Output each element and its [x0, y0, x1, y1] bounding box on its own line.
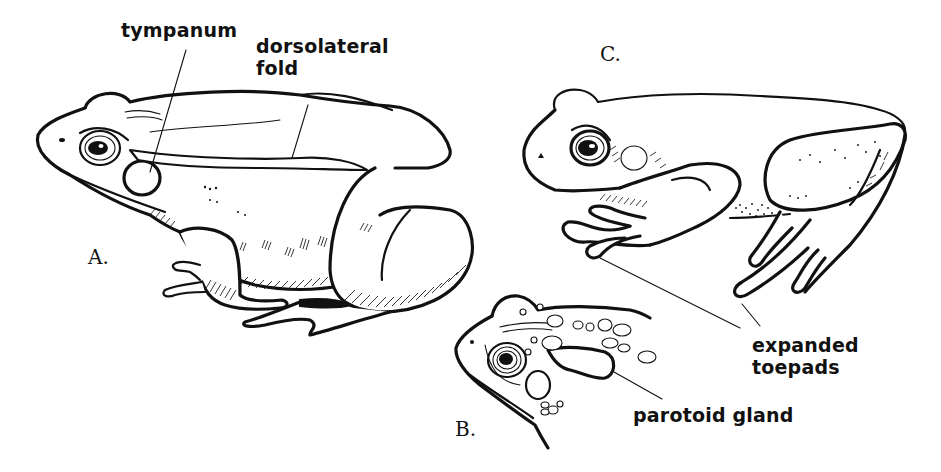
treefrog-c-drawing: [524, 90, 906, 328]
panel-letter-a: A.: [88, 245, 109, 269]
label-parotoid-gland: parotoid gland: [633, 404, 794, 426]
label-expanded-toepads-line2: toepads: [752, 356, 840, 378]
frog-anatomy-figure: tympanum dorsolateral fold A. C. expande…: [0, 0, 941, 472]
label-dorsolateral-fold-line2: fold: [256, 57, 298, 79]
label-dorsolateral-fold-line1: dorsolateral: [256, 35, 389, 57]
panel-letter-c: C.: [600, 42, 621, 66]
label-expanded-toepads-line1: expanded: [752, 334, 859, 356]
illustration-canvas: [0, 0, 941, 472]
label-tympanum: tympanum: [121, 19, 237, 41]
toad-b-drawing: [456, 296, 662, 448]
frog-a-drawing: [37, 50, 472, 335]
panel-letter-b: B.: [455, 417, 476, 441]
